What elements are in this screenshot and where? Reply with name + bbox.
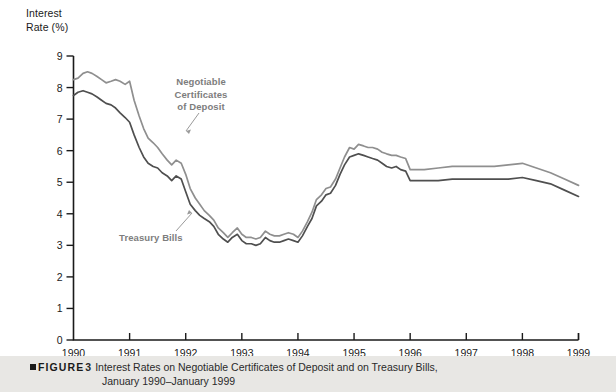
y-tick-label: 9	[57, 50, 63, 62]
x-tick-label: 1997	[455, 347, 479, 356]
x-tick-label: 1994	[286, 347, 310, 356]
y-tick-label: 1	[57, 302, 63, 314]
leader-line-treasury-bills	[176, 213, 192, 231]
x-tick-label: 1999	[567, 347, 591, 356]
axis-lines	[74, 56, 579, 340]
x-tick-label: 1991	[118, 347, 142, 356]
x-tick-label: 1990	[62, 347, 86, 356]
x-tick-label: 1992	[174, 347, 198, 356]
figure-container: Interest Rate (%) 9876543210199019911992…	[0, 0, 616, 392]
y-tick-label: 3	[57, 239, 63, 251]
x-tick-label: 1993	[230, 347, 254, 356]
y-tick-label: 4	[57, 208, 63, 220]
leader-line-cd	[186, 113, 199, 131]
series-label-treasury-bills: Treasury Bills	[119, 232, 229, 245]
series-line-cd	[74, 72, 579, 239]
y-tick-label: 8	[57, 82, 63, 94]
series-label-cd: Negotiable Certificates of Deposit	[155, 76, 247, 114]
y-tick-label: 2	[57, 271, 63, 283]
y-tick-label: 5	[57, 176, 63, 188]
caption-line-2: January 1990–January 1999	[102, 375, 600, 389]
caption-number: 3	[85, 361, 91, 373]
caption-line-1: Interest Rates on Negotiable Certificate…	[95, 361, 438, 373]
chart-plot-area: 9876543210199019911992199319941995199619…	[0, 0, 616, 356]
y-tick-label: 0	[57, 334, 63, 346]
x-tick-label: 1998	[511, 347, 535, 356]
x-tick-label: 1995	[342, 347, 366, 356]
caption-tag: FIGURE	[38, 361, 84, 373]
caption-bullet-icon	[30, 364, 36, 370]
figure-caption: FIGURE3Interest Rates on Negotiable Cert…	[30, 361, 600, 388]
y-tick-label: 7	[57, 113, 63, 125]
series-line-treasury-bills	[74, 91, 579, 246]
y-tick-label: 6	[57, 145, 63, 157]
x-tick-label: 1996	[398, 347, 422, 356]
